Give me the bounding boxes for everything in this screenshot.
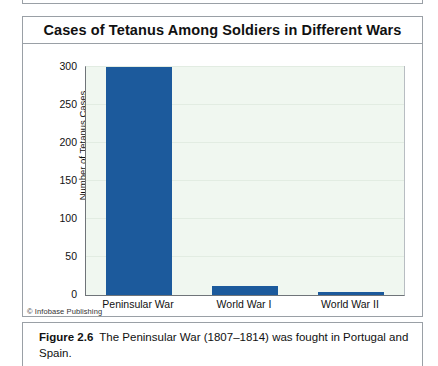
y-axis-tick-label: 150 bbox=[37, 174, 77, 186]
chart-title: Cases of Tetanus Among Soldiers in Diffe… bbox=[23, 17, 422, 44]
figure-caption: Figure 2.6The Peninsular War (1807–1814)… bbox=[39, 330, 410, 361]
y-axis-tick-label: 0 bbox=[37, 288, 77, 300]
y-axis-tick-label: 300 bbox=[37, 60, 77, 72]
x-axis-tick-label: World War I bbox=[217, 298, 272, 310]
x-axis-ticks: Peninsular WarWorld War IWorld War II bbox=[85, 298, 405, 314]
bar-world-war-ii bbox=[318, 292, 384, 295]
x-axis-tick-label: Peninsular War bbox=[102, 298, 173, 310]
chart-body: Number of Tetanus Cases 0501001502002503… bbox=[23, 44, 422, 318]
x-axis-tick-label: World War II bbox=[321, 298, 379, 310]
y-axis-tick-label: 250 bbox=[37, 98, 77, 110]
bar-world-war-i bbox=[212, 286, 278, 295]
y-axis-tick-label: 100 bbox=[37, 212, 77, 224]
y-axis-tick-label: 50 bbox=[37, 250, 77, 262]
bar-peninsular-war bbox=[106, 67, 172, 295]
chart-frame: Cases of Tetanus Among Soldiers in Diffe… bbox=[22, 16, 423, 317]
y-axis-ticks: 050100150200250300 bbox=[23, 66, 81, 294]
figure-number: Figure 2.6 bbox=[39, 331, 93, 343]
figure-caption-text: The Peninsular War (1807–1814) was fough… bbox=[39, 331, 408, 359]
plot-area bbox=[85, 66, 405, 296]
publisher-credit: © Infobase Publishing bbox=[27, 307, 102, 316]
caption-frame: Figure 2.6The Peninsular War (1807–1814)… bbox=[22, 322, 423, 366]
previous-figure-edge bbox=[22, 0, 423, 4]
y-axis-tick-label: 200 bbox=[37, 136, 77, 148]
